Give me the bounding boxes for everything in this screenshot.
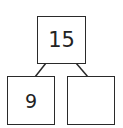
part-box-right[interactable]	[67, 76, 115, 125]
whole-value: 15	[48, 28, 75, 52]
whole-box: 15	[37, 16, 86, 64]
right-connector	[76, 63, 88, 77]
part-box-left: 9	[7, 76, 55, 125]
part-value-left: 9	[25, 90, 37, 112]
left-connector	[35, 63, 46, 77]
